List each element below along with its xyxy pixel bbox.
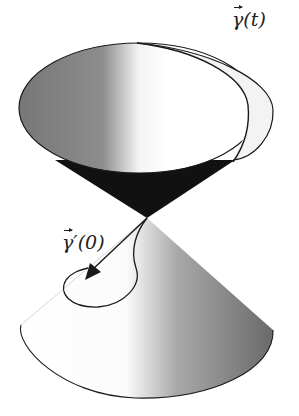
curve-label: γ(t) [232, 10, 266, 29]
tangent-label: γ′(0) [62, 233, 105, 252]
light-cone-diagram [0, 0, 299, 416]
upper-cone-cap [19, 43, 259, 173]
lower-cone [20, 218, 273, 398]
